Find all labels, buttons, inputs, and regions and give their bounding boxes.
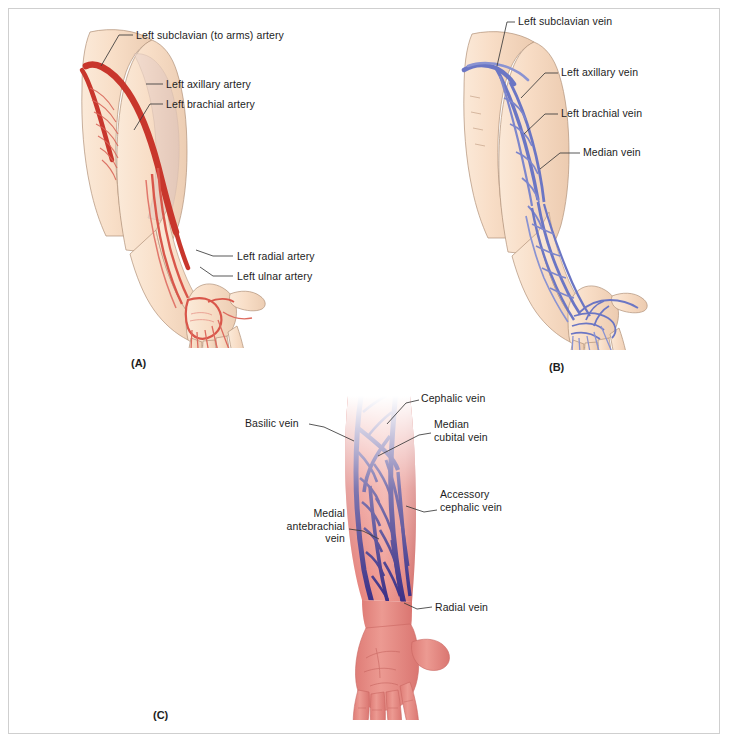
label-radial-vein: Radial vein <box>435 601 488 614</box>
label-left-subclavian-vein: Left subclavian vein <box>518 15 612 28</box>
finger-4 <box>370 692 385 720</box>
forearm-top-fade <box>345 396 416 602</box>
label-medial-antebrachial-vein: Medial antebrachial vein <box>265 507 345 545</box>
panel-letter-b: (B) <box>549 361 564 373</box>
anatomy-figure: Left subclavian (to arms) artery Left ax… <box>0 0 730 744</box>
label-basilic-vein: Basilic vein <box>245 417 299 430</box>
label-median-cubital-vein: Median cubital vein <box>434 418 488 443</box>
panel-letter-a: (A) <box>131 357 146 369</box>
label-left-axillary-vein: Left axillary vein <box>561 66 638 79</box>
finger-4 <box>202 340 216 348</box>
label-median-vein: Median vein <box>583 146 641 159</box>
panel-a-illustration <box>60 18 290 348</box>
label-left-axillary-artery: Left axillary artery <box>166 78 251 91</box>
label-left-radial-artery: Left radial artery <box>237 250 315 263</box>
label-left-brachial-artery: Left brachial artery <box>166 98 255 111</box>
label-cephalic-vein: Cephalic vein <box>421 392 485 405</box>
label-left-subclavian-artery: Left subclavian (to arms) artery <box>136 29 284 42</box>
label-left-ulnar-artery: Left ulnar artery <box>237 270 312 283</box>
finger-3 <box>216 336 231 348</box>
label-left-brachial-vein: Left brachial vein <box>561 107 642 120</box>
panel-a-arteries <box>60 18 290 348</box>
label-accessory-cephalic-vein: Accessory cephalic vein <box>440 488 502 513</box>
finger-5 <box>353 690 369 720</box>
panel-letter-c: (C) <box>153 709 168 721</box>
